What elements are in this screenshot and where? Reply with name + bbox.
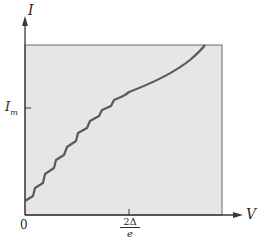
- x-axis-arrow-icon: [233, 212, 243, 218]
- plot-area: [25, 45, 222, 215]
- x-axis-label: V: [246, 206, 256, 222]
- y-tick-label-im: Im: [5, 99, 18, 117]
- x-tick-label-gap: 2Δ e: [120, 216, 140, 239]
- origin-label: 0: [20, 218, 28, 232]
- im-sub: m: [10, 108, 18, 117]
- gap-denominator: e: [120, 228, 140, 239]
- gap-numerator: 2Δ: [120, 216, 140, 228]
- iv-diagram: [0, 0, 266, 245]
- y-axis-label: I: [28, 2, 34, 18]
